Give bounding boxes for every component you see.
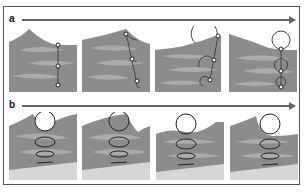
time-arrow-a [22, 19, 290, 21]
particle-marker [56, 43, 60, 47]
panel-b2 [82, 112, 150, 180]
panel-b4 [230, 112, 298, 180]
panel-a2 [82, 28, 150, 92]
panel-a4 [229, 26, 301, 92]
panel-b3 [156, 112, 224, 180]
row-label-b: b [9, 100, 15, 110]
panel-b1 [9, 112, 77, 180]
panel-a3 [155, 26, 227, 92]
time-arrow-b [22, 105, 290, 107]
row-label-a: a [9, 14, 15, 24]
panel-a1 [9, 28, 77, 92]
